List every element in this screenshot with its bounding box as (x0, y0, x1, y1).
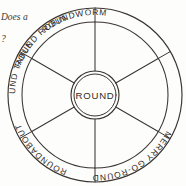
segment-label-roundabout: ROUNDABOUT (13, 122, 68, 177)
word-wheel-page: Does a ? (0, 0, 186, 186)
spoke-upper-right (116, 59, 158, 84)
segment-label-roundworm: ROUNDWORM (40, 7, 108, 34)
segment-textpath-roundworm: ROUNDWORM (40, 7, 108, 34)
segment-textpath-merry-go-round: MERRY GO-ROUND (92, 130, 174, 183)
rim-divider-2 (158, 52, 170, 59)
segment-textpath-roundabout: ROUNDABOUT (13, 122, 68, 177)
spoke-lower-right (116, 107, 158, 132)
spoke-upper-left (32, 59, 74, 84)
segment-label-merry-go-round: MERRY GO-ROUND (92, 130, 174, 183)
segment-label-round-table: ROUND TABLE (0, 0, 35, 94)
spoke-lower-left (32, 107, 74, 132)
wheel-hub-label: ROUND (75, 90, 114, 101)
round-word-wheel: ROUND ROBIN ROUNDWORM ROUND TABLE MERRY … (0, 0, 186, 186)
segment-textpath-round-table: ROUND TABLE (0, 0, 35, 94)
